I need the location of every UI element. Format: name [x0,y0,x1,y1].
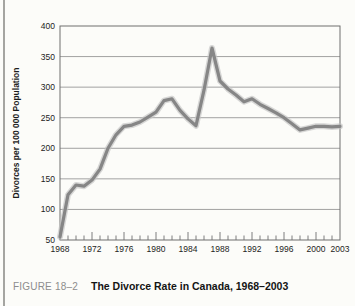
divorce-rate-chart: 5010015020025030035040019681972197619801… [0,0,355,268]
divorce-rate-line-halo [60,48,340,237]
plot-border [60,26,340,240]
x-tick-label: 1992 [243,244,262,254]
figure-title: The Divorce Rate in Canada, 1968–2003 [91,280,288,292]
y-tick-label: 150 [41,174,55,184]
y-tick-label: 400 [41,21,55,31]
x-tick-label: 1988 [211,244,230,254]
x-tick-label: 1972 [83,244,102,254]
x-tick-label: 1968 [51,244,70,254]
x-tick-label: 1996 [275,244,294,254]
y-tick-label: 350 [41,52,55,62]
y-tick-label: 300 [41,82,55,92]
x-tick-label: 1976 [115,244,134,254]
y-tick-label: 250 [41,113,55,123]
figure-caption: FIGURE 18–2 The Divorce Rate in Canada, … [13,280,351,292]
x-tick-label: 2003 [331,244,350,254]
x-tick-label: 2000 [307,244,326,254]
figure-panel: 5010015020025030035040019681972197619801… [0,0,355,306]
figure-number-label: FIGURE 18–2 [13,281,78,292]
y-tick-label: 100 [41,204,55,214]
divorce-rate-line [60,48,340,237]
x-tick-label: 1980 [147,244,166,254]
y-axis-title: Divorces per 100 000 Population [11,68,21,199]
y-tick-label: 200 [41,143,55,153]
x-tick-label: 1984 [179,244,198,254]
